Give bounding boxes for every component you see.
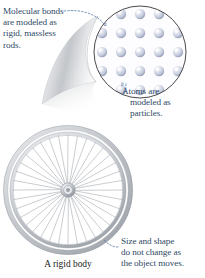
atom-marker-label: a	[104, 21, 107, 27]
annotation-line: the object moves.	[121, 258, 205, 269]
annotation-line: Molecular bonds	[3, 6, 79, 17]
annotation-line: particles.	[122, 108, 204, 119]
annotation-line: are modeled as	[3, 17, 79, 28]
annotation-atoms: Atoms are modeled as particles.	[122, 86, 204, 120]
annotation-line: Atoms are	[122, 86, 204, 97]
annotation-line: Size and shape	[121, 236, 205, 247]
figure-caption: A rigid body	[8, 259, 128, 269]
annotation-molecular-bonds: Molecular bonds are modeled as rigid, ma…	[3, 6, 79, 51]
rigid-body-figure: a b Molecular bonds are modeled as rigid…	[0, 0, 205, 278]
annotation-line: do not change as	[121, 247, 205, 258]
annotation-line: modeled as	[122, 97, 204, 108]
annotation-size-and-shape: Size and shape do not change as the obje…	[121, 236, 205, 270]
leader-size	[104, 240, 118, 247]
annotation-line: rods.	[3, 40, 79, 51]
annotation-line: rigid, massless	[3, 28, 79, 39]
